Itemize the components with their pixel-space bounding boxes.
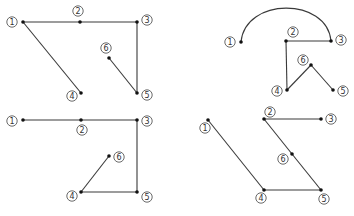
- node-dot-3: [135, 118, 139, 122]
- node-label-5: 5: [142, 90, 152, 100]
- node-label-4: 4: [272, 86, 282, 96]
- label-number: 5: [144, 91, 149, 100]
- label-number: 1: [9, 18, 14, 27]
- node-label-1: 1: [7, 17, 17, 27]
- node-dot-5: [319, 188, 323, 192]
- graph-top-left: 123456: [7, 6, 152, 101]
- label-number: 1: [202, 124, 207, 133]
- node-label-4: 4: [256, 193, 266, 203]
- node-dot-6: [290, 152, 294, 156]
- label-number: 6: [116, 153, 121, 162]
- node-dot-6: [107, 154, 111, 158]
- node-label-4: 4: [67, 191, 77, 201]
- node-label-5: 5: [319, 194, 329, 204]
- node-label-2: 2: [288, 27, 298, 37]
- node-dot-5: [135, 91, 139, 95]
- edge-4-6: [81, 156, 109, 192]
- node-label-3: 3: [326, 114, 336, 124]
- graph-bottom-right: 123456: [200, 107, 336, 204]
- node-dot-3: [329, 39, 333, 43]
- label-number: 3: [144, 16, 149, 25]
- label-number: 1: [227, 38, 232, 47]
- label-number: 3: [328, 115, 333, 124]
- label-number: 2: [290, 28, 295, 37]
- node-label-5: 5: [142, 192, 152, 202]
- label-number: 4: [258, 194, 263, 203]
- label-number: 5: [321, 195, 326, 204]
- edge-5-6: [292, 154, 321, 190]
- graph-top-right: 123456: [225, 8, 348, 96]
- edge-6-5: [311, 65, 333, 90]
- node-label-6: 6: [101, 43, 111, 53]
- node-label-2: 2: [77, 125, 87, 135]
- node-label-6: 6: [114, 152, 124, 162]
- node-dot-4: [79, 91, 83, 95]
- node-label-1: 1: [7, 116, 17, 126]
- label-number: 4: [274, 87, 279, 96]
- node-label-6: 6: [298, 55, 308, 65]
- edge-5-6: [109, 58, 137, 93]
- label-number: 3: [144, 117, 149, 126]
- node-label-6: 6: [278, 154, 288, 164]
- graph-bottom-left: 123456: [7, 116, 152, 202]
- node-dot-2: [284, 39, 288, 43]
- node-dot-4: [285, 88, 289, 92]
- node-dot-2: [262, 117, 266, 121]
- edge-4-6: [287, 65, 311, 90]
- node-dot-3: [135, 20, 139, 24]
- edge-arc-1-3: [241, 8, 331, 42]
- label-number: 4: [69, 192, 74, 201]
- edge-6-2: [264, 119, 292, 154]
- node-label-2: 2: [265, 107, 275, 117]
- label-number: 2: [75, 7, 80, 16]
- node-label-2: 2: [73, 6, 83, 16]
- node-dot-6: [107, 56, 111, 60]
- node-dot-4: [262, 188, 266, 192]
- label-number: 5: [340, 87, 345, 96]
- label-number: 3: [338, 36, 343, 45]
- node-dot-4: [79, 190, 83, 194]
- edge-1-4: [208, 120, 264, 190]
- edge-1-4: [23, 22, 81, 93]
- label-number: 2: [267, 108, 272, 117]
- node-label-3: 3: [336, 35, 346, 45]
- node-dot-3: [319, 117, 323, 121]
- node-label-3: 3: [142, 15, 152, 25]
- node-dot-5: [135, 190, 139, 194]
- node-label-5: 5: [338, 86, 348, 96]
- node-label-3: 3: [142, 116, 152, 126]
- node-dot-5: [331, 88, 335, 92]
- edge-2-4: [286, 41, 287, 90]
- label-number: 1: [9, 117, 14, 126]
- label-number: 5: [144, 193, 149, 202]
- node-dot-2: [78, 20, 82, 24]
- graph-diagrams-canvas: 123456123456123456123456: [0, 0, 354, 216]
- label-number: 6: [280, 155, 285, 164]
- label-number: 6: [103, 44, 108, 53]
- label-number: 4: [69, 92, 74, 101]
- node-label-1: 1: [200, 123, 210, 133]
- node-dot-1: [239, 40, 243, 44]
- node-dot-2: [79, 118, 83, 122]
- node-dot-1: [21, 20, 25, 24]
- node-dot-1: [21, 118, 25, 122]
- node-dot-1: [206, 118, 210, 122]
- node-dot-6: [309, 63, 313, 67]
- node-label-1: 1: [225, 37, 235, 47]
- label-number: 2: [79, 126, 84, 135]
- label-number: 6: [300, 56, 305, 65]
- node-label-4: 4: [67, 91, 77, 101]
